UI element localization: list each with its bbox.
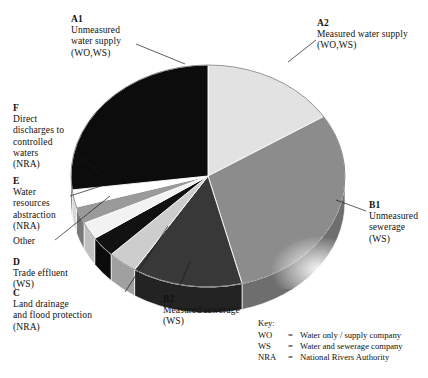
chart-label-f: FDirectdischarges tocontrolledwaters(NRA…	[13, 103, 64, 170]
key-row: WO=Water only / supply company	[258, 330, 403, 341]
chart-label-line: (WO,WS)	[71, 48, 121, 59]
chart-label-line: (WS)	[369, 234, 418, 245]
chart-label-d: DTrade effluent(WS)	[13, 257, 68, 291]
chart-label-line: abstraction	[13, 210, 56, 221]
chart-label-e: EWaterresourcesabstraction(NRA)	[13, 176, 56, 232]
key-rows: WO=Water only / supply companyWS=Water a…	[258, 330, 403, 363]
chart-label-line: sewerage	[369, 222, 418, 233]
chart-label-code: C	[13, 288, 92, 299]
chart-label-code: E	[13, 176, 56, 187]
chart-label-other: Other	[13, 236, 35, 247]
leader-line	[288, 40, 316, 62]
key-description: National Rivers Authority	[300, 352, 389, 363]
chart-label-a2: A2Measured water supply(WO,WS)	[317, 18, 408, 52]
key-description: Water and sewerage company	[300, 341, 403, 352]
chart-label-line: Trade effluent	[13, 268, 68, 279]
chart-label-line: (WS)	[163, 316, 240, 327]
chart-label-b2: B2Measured sewerage(WS)	[163, 294, 240, 328]
rim-highlight	[220, 200, 346, 289]
leader-line	[136, 44, 185, 64]
key-title: Key:	[258, 318, 403, 329]
chart-label-line: Land drainage	[13, 299, 92, 310]
chart-label-line: and flood protection	[13, 310, 92, 321]
chart-label-line: (NRA)	[13, 159, 64, 170]
chart-label-line: Measured water supply	[317, 29, 408, 40]
chart-label-c: CLand drainageand flood protection(NRA)	[13, 288, 92, 333]
chart-label-line: Direct	[13, 114, 64, 125]
chart-label-code: F	[13, 103, 64, 114]
chart-label-b1: B1Unmeasuredsewerage(WS)	[369, 200, 418, 245]
chart-label-code: B1	[369, 200, 418, 211]
key-equals: =	[288, 330, 300, 341]
key-description: Water only / supply company	[300, 330, 401, 341]
chart-label-line: Unmeasured	[369, 211, 418, 222]
chart-label-line: Unmeasured	[71, 25, 121, 36]
chart-label-code: A1	[71, 14, 121, 25]
chart-label-code: D	[13, 257, 68, 268]
pie-specular-highlight	[220, 200, 346, 289]
chart-label-line: Measured sewerage	[163, 305, 240, 316]
pie-slice	[71, 65, 208, 190]
key-abbr: WS	[258, 341, 288, 352]
chart-label-line: waters	[13, 148, 64, 159]
key-abbr: WO	[258, 330, 288, 341]
chart-label-line: (NRA)	[13, 221, 56, 232]
key-row: NRA=National Rivers Authority	[258, 352, 403, 363]
chart-label-line: controlled	[13, 137, 64, 148]
key-row: WS=Water and sewerage company	[258, 341, 403, 352]
chart-label-line: Water	[13, 187, 56, 198]
chart-label-line: resources	[13, 198, 56, 209]
key-equals: =	[288, 341, 300, 352]
chart-label-a1: A1Unmeasuredwater supply(WO,WS)	[71, 14, 121, 59]
chart-label-line: (WO,WS)	[317, 40, 408, 51]
chart-label-line: discharges to	[13, 125, 64, 136]
key-abbr: NRA	[258, 352, 288, 363]
chart-label-code: A2	[317, 18, 408, 29]
chart-label-code: B2	[163, 294, 240, 305]
chart-label-line: Other	[13, 236, 35, 247]
chart-label-line: water supply	[71, 36, 121, 47]
chart-key: Key: WO=Water only / supply companyWS=Wa…	[258, 318, 403, 363]
key-equals: =	[288, 352, 300, 363]
chart-label-line: (NRA)	[13, 322, 92, 333]
